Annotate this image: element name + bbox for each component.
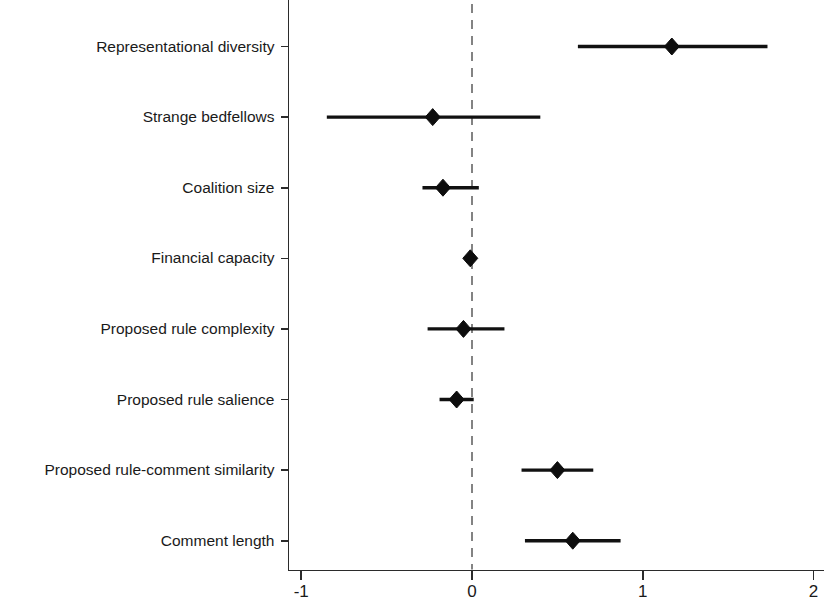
point-estimate-marker — [425, 109, 440, 126]
point-estimate-marker — [456, 320, 471, 337]
point-estimate-marker — [664, 38, 679, 55]
x-axis-tick-label: 2 — [809, 582, 818, 601]
category-label: Proposed rule complexity — [100, 320, 274, 337]
category-axis: Representational diversityStrange bedfel… — [45, 38, 289, 549]
point-estimate-marker — [565, 532, 580, 549]
category-label: Strange bedfellows — [143, 108, 275, 125]
plot-canvas: Representational diversityStrange bedfel… — [0, 0, 824, 604]
value-axis: -1012 — [294, 571, 819, 601]
coefficient-plot-figure: Representational diversityStrange bedfel… — [0, 0, 824, 604]
point-estimate-marker — [550, 462, 565, 479]
data-series — [327, 38, 768, 549]
axes — [289, 0, 824, 571]
coefficient-row — [578, 38, 768, 55]
category-label: Proposed rule salience — [117, 391, 275, 408]
coefficient-row — [422, 179, 478, 196]
category-label: Comment length — [161, 532, 275, 549]
category-label: Coalition size — [182, 179, 274, 196]
category-label: Representational diversity — [96, 38, 275, 55]
coefficient-row — [327, 109, 541, 126]
coefficient-row — [440, 391, 474, 408]
coefficient-row — [428, 320, 505, 337]
point-estimate-marker — [463, 250, 478, 267]
coefficient-row — [522, 462, 594, 479]
coefficient-row — [463, 250, 478, 267]
x-axis-tick-label: -1 — [294, 582, 309, 601]
point-estimate-marker — [435, 179, 450, 196]
coefficient-row — [525, 532, 621, 549]
category-label: Proposed rule-comment similarity — [45, 461, 275, 478]
point-estimate-marker — [449, 391, 464, 408]
x-axis-tick-label: 0 — [467, 582, 476, 601]
category-label: Financial capacity — [151, 249, 274, 266]
x-axis-tick-label: 1 — [638, 582, 647, 601]
